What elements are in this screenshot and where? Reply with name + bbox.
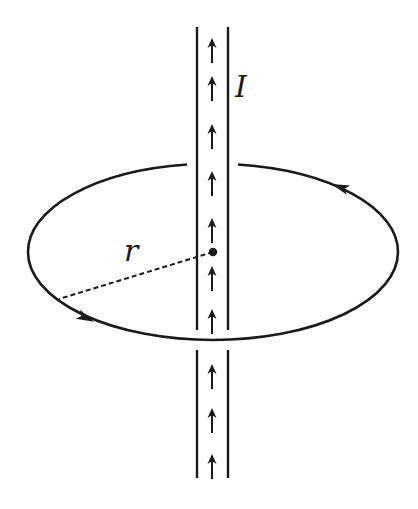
arrow-up-icon bbox=[208, 124, 217, 149]
arrow-up-icon bbox=[208, 408, 217, 433]
current-arrows bbox=[208, 38, 217, 479]
arrow-up-icon bbox=[208, 266, 217, 291]
arrow-up-icon bbox=[208, 171, 217, 196]
arrow-up-icon bbox=[208, 218, 217, 243]
arrow-up-icon bbox=[208, 309, 217, 334]
arrow-up-icon bbox=[208, 364, 217, 389]
arrow-up-icon bbox=[208, 454, 217, 479]
arrow-up-icon bbox=[208, 76, 217, 101]
diagram-canvas bbox=[0, 0, 418, 509]
arrow-up-icon bbox=[208, 38, 217, 63]
loop-arc-right bbox=[213, 165, 398, 341]
current-label: I bbox=[235, 72, 247, 102]
loop-arc-left bbox=[28, 165, 213, 341]
center-point bbox=[209, 248, 217, 256]
radius-label: r bbox=[124, 236, 138, 266]
